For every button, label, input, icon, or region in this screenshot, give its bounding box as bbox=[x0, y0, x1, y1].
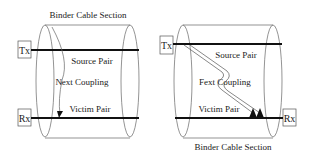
left-title: Binder Cable Section bbox=[50, 10, 127, 20]
left-coupling-label: Next Coupling bbox=[55, 77, 109, 87]
left-rx-label: Rx bbox=[19, 113, 31, 124]
crosstalk-diagram: Binder Cable Section Tx Rx Source Pair N… bbox=[0, 0, 311, 164]
left-tx-label: Tx bbox=[19, 45, 30, 56]
fext-coupling-arrowhead-1 bbox=[249, 108, 257, 118]
fext-coupling-arrowhead-2 bbox=[256, 108, 264, 118]
right-title: Binder Cable Section bbox=[195, 142, 272, 152]
next-coupling-arrowhead bbox=[57, 111, 63, 118]
left-victim-pair-label: Victim Pair bbox=[69, 104, 110, 114]
next-diagram: Binder Cable Section Tx Rx Source Pair N… bbox=[18, 10, 139, 138]
right-coupling-label: Fext Coupling bbox=[199, 77, 251, 87]
fext-diagram: Tx Rx Source Pair Fext Coupling Victim P… bbox=[160, 25, 296, 152]
right-victim-pair-label: Victim Pair bbox=[198, 104, 239, 114]
left-source-pair-label: Source Pair bbox=[71, 56, 113, 66]
right-tx-label: Tx bbox=[161, 40, 172, 51]
right-rx-label: Rx bbox=[284, 113, 296, 124]
right-source-pair-label: Source Pair bbox=[215, 50, 257, 60]
